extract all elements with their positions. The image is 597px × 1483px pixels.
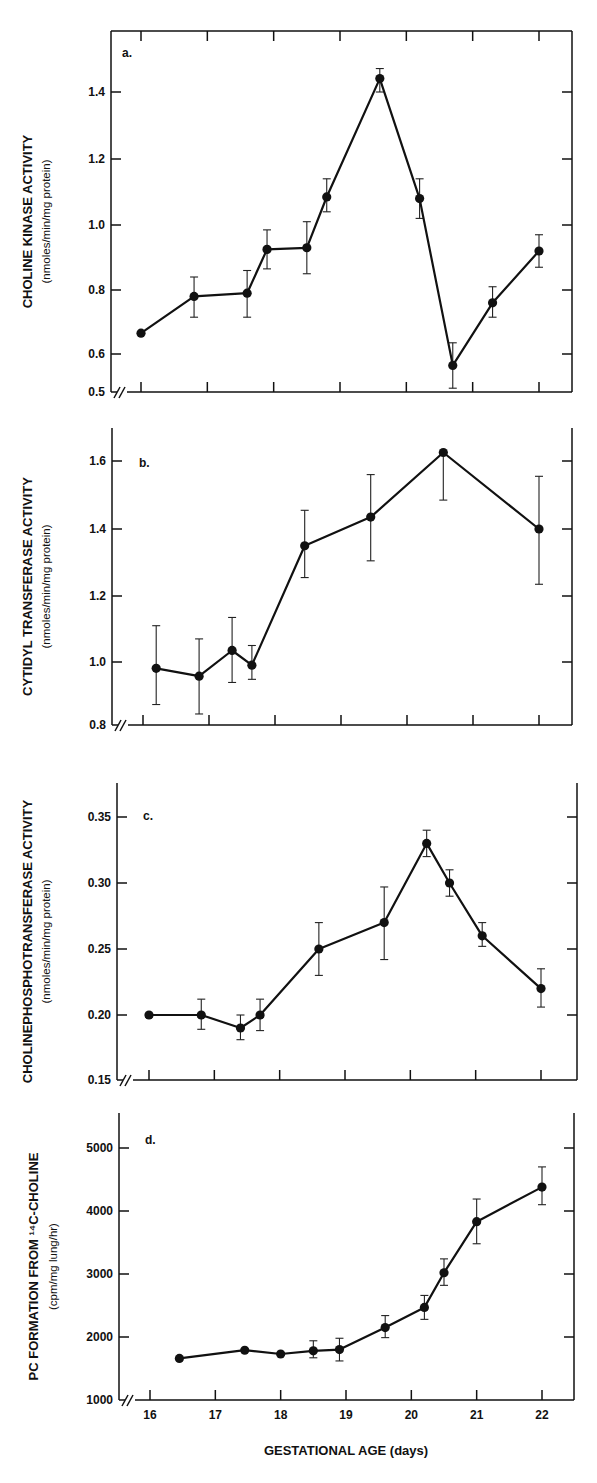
y-axis-units: (nmoles/min/mg protein) bbox=[40, 524, 52, 648]
y-axis-units: (nmoles/min/mg protein) bbox=[40, 159, 52, 283]
data-point bbox=[175, 1354, 184, 1363]
data-point bbox=[276, 1349, 285, 1358]
y-tick-label: 0.5 bbox=[88, 385, 105, 399]
y-tick-label: 0.25 bbox=[88, 942, 112, 956]
data-series-line bbox=[156, 453, 539, 677]
data-point bbox=[228, 646, 237, 655]
x-tick-label: 22 bbox=[535, 1408, 549, 1422]
data-point bbox=[439, 448, 448, 457]
data-point bbox=[255, 1010, 264, 1019]
y-tick-label: 1.2 bbox=[89, 589, 106, 603]
x-tick-label: 19 bbox=[339, 1408, 353, 1422]
panel-a-choline-kinase: 0.50.60.81.01.21.4a.CHOLINE KINASE ACTIV… bbox=[20, 31, 572, 399]
data-point bbox=[536, 984, 545, 993]
data-point bbox=[439, 1268, 448, 1277]
data-point bbox=[488, 298, 497, 307]
data-point bbox=[534, 524, 543, 533]
x-tick-label: 16 bbox=[143, 1408, 157, 1422]
data-point bbox=[197, 1010, 206, 1019]
data-point bbox=[152, 664, 161, 673]
y-tick-label: 1.4 bbox=[88, 85, 105, 99]
y-axis-title: CHOLINEPHOSPHOTRANSFERASE ACTIVITY bbox=[20, 799, 35, 1083]
y-tick-label: 0.8 bbox=[89, 718, 106, 732]
data-point bbox=[375, 74, 384, 83]
data-point bbox=[300, 541, 309, 550]
data-point bbox=[534, 246, 543, 255]
y-axis-title: CYTIDYL TRANSFERASE ACTIVITY bbox=[20, 477, 35, 696]
y-axis-units: (cpm/mg lung/hr) bbox=[47, 1223, 59, 1310]
y-tick-label: 0.30 bbox=[88, 876, 112, 890]
y-tick-label: 1.0 bbox=[88, 218, 105, 232]
y-tick-label: 2000 bbox=[86, 1330, 113, 1344]
x-axis-tick-labels: 16171819202122 bbox=[143, 1408, 549, 1422]
y-tick-label: 0.20 bbox=[88, 1008, 112, 1022]
data-point bbox=[240, 1346, 249, 1355]
data-point bbox=[478, 931, 487, 940]
y-tick-label: 1.6 bbox=[89, 454, 106, 468]
y-tick-label: 4000 bbox=[86, 1204, 113, 1218]
data-point bbox=[236, 1023, 245, 1032]
data-point bbox=[144, 1010, 153, 1019]
x-tick-label: 18 bbox=[274, 1408, 288, 1422]
data-point bbox=[381, 1323, 390, 1332]
y-tick-label: 1.0 bbox=[89, 655, 106, 669]
y-tick-label: 5000 bbox=[86, 1141, 113, 1155]
x-tick-label: 20 bbox=[405, 1408, 419, 1422]
data-point bbox=[314, 944, 323, 953]
x-axis-title: GESTATIONAL AGE (days) bbox=[264, 1443, 428, 1458]
y-tick-label: 1.4 bbox=[89, 522, 106, 536]
y-tick-label: 1000 bbox=[86, 1393, 113, 1407]
x-tick-label: 17 bbox=[209, 1408, 223, 1422]
data-point bbox=[195, 672, 204, 681]
y-axis-title: PC FORMATION FROM ¹⁴C-CHOLINE bbox=[26, 1152, 41, 1380]
error-bar bbox=[439, 453, 447, 501]
panel-d-pc-formation: 10002000300040005000d.PC FORMATION FROM … bbox=[26, 1113, 574, 1407]
panel-c-cholinephosphotransferase: 0.150.200.250.300.35c.CHOLINEPHOSPHOTRAN… bbox=[20, 783, 577, 1087]
y-axis-units: (nmoles/min/mg protein) bbox=[40, 879, 52, 1003]
panel-letter: a. bbox=[122, 46, 132, 60]
y-tick-label: 0.8 bbox=[88, 283, 105, 297]
panel-b-cytidyl-transferase: 0.81.01.21.41.6b.CYTIDYL TRANSFERASE ACT… bbox=[20, 428, 572, 732]
data-point bbox=[302, 243, 311, 252]
y-axis-title: CHOLINE KINASE ACTIVITY bbox=[20, 134, 35, 308]
data-point bbox=[136, 329, 145, 338]
data-point bbox=[335, 1345, 344, 1354]
data-point bbox=[243, 289, 252, 298]
data-series-line bbox=[179, 1187, 542, 1358]
y-tick-label: 0.15 bbox=[88, 1073, 112, 1087]
data-point bbox=[366, 513, 375, 522]
panel-letter: c. bbox=[143, 809, 153, 823]
data-series-line bbox=[141, 79, 539, 366]
y-tick-label: 3000 bbox=[86, 1267, 113, 1281]
panel-letter: b. bbox=[139, 456, 150, 470]
data-point bbox=[247, 661, 256, 670]
data-point bbox=[472, 1217, 481, 1226]
y-tick-label: 0.35 bbox=[88, 810, 112, 824]
data-point bbox=[422, 839, 431, 848]
data-point bbox=[309, 1346, 318, 1355]
data-point bbox=[420, 1303, 429, 1312]
data-point bbox=[189, 292, 198, 301]
y-tick-label: 1.2 bbox=[88, 152, 105, 166]
data-point bbox=[448, 361, 457, 370]
data-point bbox=[415, 194, 424, 203]
x-tick-label: 21 bbox=[470, 1408, 484, 1422]
data-point bbox=[262, 245, 271, 254]
data-point bbox=[380, 918, 389, 927]
data-point bbox=[445, 878, 454, 887]
panel-letter: d. bbox=[145, 1133, 156, 1147]
data-point bbox=[322, 192, 331, 201]
figure: 0.50.60.81.01.21.4a.CHOLINE KINASE ACTIV… bbox=[0, 0, 597, 1483]
data-point bbox=[537, 1182, 546, 1191]
y-tick-label: 0.6 bbox=[88, 347, 105, 361]
